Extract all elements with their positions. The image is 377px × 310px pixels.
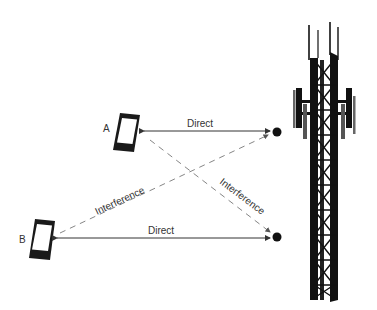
phone-a-label: A	[103, 123, 110, 134]
edge-a-interference-label: Interference	[218, 176, 268, 217]
edge-a-direct-label: Direct	[187, 118, 213, 129]
phone-a-icon	[113, 113, 140, 152]
edge-b-interference-label: Interference	[93, 184, 146, 217]
cell-tower-icon	[293, 22, 356, 302]
edge-a-interference	[150, 140, 270, 232]
tower-receiver-bottom	[273, 233, 282, 242]
edge-b-direct-label: Direct	[148, 225, 174, 236]
tower-receiver-top	[273, 128, 282, 137]
interference-diagram: A B Direct Direct Interference Interfere…	[0, 0, 377, 310]
phone-b-label: B	[19, 234, 26, 245]
phone-b-icon	[29, 219, 55, 260]
